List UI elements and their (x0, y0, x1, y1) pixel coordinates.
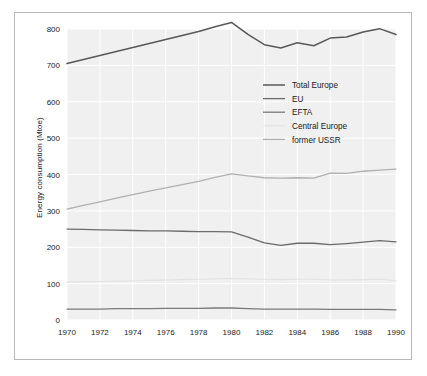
y-axis-tick-label: 100 (47, 280, 61, 289)
x-axis-tick-label: 1986 (321, 328, 339, 337)
legend-label-total-europe: Total Europe (292, 81, 338, 90)
line-chart: 0100200300400500600700800197019721974197… (15, 13, 411, 359)
y-axis-tick-label: 300 (47, 207, 61, 216)
x-axis-tick-label: 1978 (190, 328, 208, 337)
x-axis-tick-label: 1974 (124, 328, 142, 337)
y-axis-title: Energy consumption (Mtoe) (35, 78, 44, 258)
x-axis-tick-label: 1976 (157, 328, 175, 337)
y-axis-tick-label: 0 (56, 316, 61, 325)
legend-label-former-ussr: former USSR (292, 136, 341, 145)
x-axis-tick-label: 1980 (223, 328, 241, 337)
y-axis-tick-label: 500 (47, 134, 61, 143)
y-axis-tick-label: 600 (47, 98, 61, 107)
x-axis-tick-label: 1990 (387, 328, 405, 337)
legend-label-eu: EU (292, 95, 303, 104)
x-axis-tick-label: 1984 (288, 328, 306, 337)
y-axis-tick-label: 700 (47, 61, 61, 70)
x-axis-tick-label: 1972 (91, 328, 109, 337)
x-axis-tick-label: 1970 (58, 328, 76, 337)
y-axis-tick-label: 400 (47, 171, 61, 180)
y-axis-tick-label: 800 (47, 25, 61, 34)
x-axis-tick-label: 1982 (256, 328, 274, 337)
legend-label-central-europe: Central Europe (292, 122, 348, 131)
legend-label-efta: EFTA (292, 108, 313, 117)
y-axis-tick-label: 200 (47, 243, 61, 252)
x-axis-tick-label: 1988 (354, 328, 372, 337)
chart-plot-wrapper: Energy consumption (Mtoe) 01002003004005… (15, 13, 411, 359)
chart-figure: Energy consumption (Mtoe) 01002003004005… (14, 12, 412, 360)
